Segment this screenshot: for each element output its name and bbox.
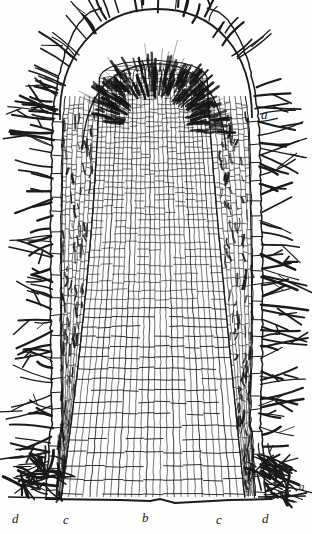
figure-label-b-center: b: [142, 511, 149, 524]
figure-label-a-lower: a: [299, 481, 305, 492]
figure-label-d-left: d: [12, 512, 19, 525]
root-tip-engraving: [0, 0, 312, 534]
figure-label-d-right: d: [262, 512, 269, 525]
figure-label-c-right: c: [216, 513, 222, 526]
figure-root-tip-illustration: aadcbcd: [0, 0, 312, 534]
figure-label-c-left: c: [63, 513, 69, 526]
figure-label-a-upper: a: [261, 108, 268, 121]
